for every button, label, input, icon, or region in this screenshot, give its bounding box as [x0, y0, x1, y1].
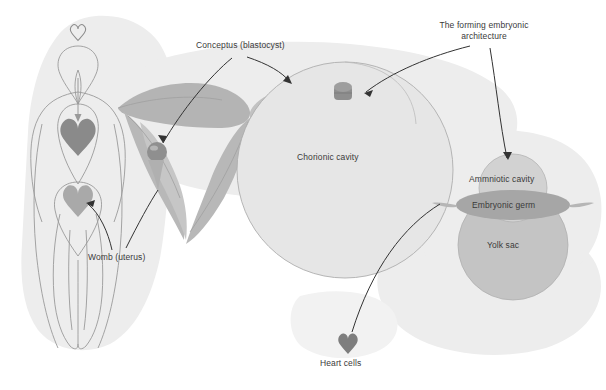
label-embryonic-germ: Embryonic germ	[472, 200, 535, 211]
blastocyst-highlight	[150, 145, 158, 150]
label-heart-cells: Heart cells	[320, 358, 361, 369]
embryonic-disc-icon	[334, 82, 352, 100]
diagram-canvas: Conceptus (blastocyst) The forming embry…	[0, 0, 606, 390]
label-amniotic-cavity: Ammniotic cavity	[469, 174, 534, 185]
label-womb: Womb (uterus)	[88, 252, 145, 263]
label-forming-architecture-line2: architecture	[461, 31, 507, 41]
label-conceptus: Conceptus (blastocyst)	[196, 40, 285, 51]
diagram-graphics	[0, 0, 606, 390]
blastocyst-sphere-icon	[147, 142, 167, 162]
label-yolk-sac: Yolk sac	[487, 240, 519, 251]
label-chorionic-cavity: Chorionic cavity	[297, 152, 359, 163]
label-forming-architecture-line1: The forming embryonic	[439, 20, 528, 30]
label-forming-architecture: The forming embryonic architecture	[424, 20, 544, 41]
chorionic-cavity-group	[237, 62, 453, 278]
